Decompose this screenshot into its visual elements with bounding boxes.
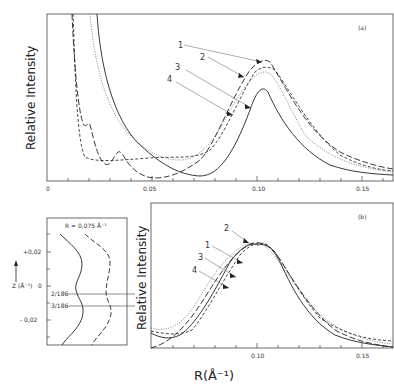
panel-a-curve-1 — [72, 14, 393, 178]
panel-a: 0 0.05 0.10 0.15 Relative Intensity (a) … — [24, 14, 393, 192]
inset-ylabel: Z (Å⁻¹) — [12, 282, 32, 289]
inset-line-3-label: 3/186 — [51, 302, 68, 309]
figure: 0 0.05 0.10 0.15 Relative Intensity (a) … — [0, 0, 394, 388]
panel-a-xtick-015: 0.15 — [356, 185, 370, 192]
inset-y-arrow-icon — [14, 260, 18, 282]
inset-line-2-label: 2/186 — [51, 290, 68, 297]
panel-b-label-1: 1 — [205, 241, 210, 250]
panel-b-arrowheads — [223, 238, 249, 289]
inset-y-ticks — [47, 234, 51, 337]
inset-frame — [47, 218, 127, 345]
panel-b: 0.10 0.15 Relative Intensity R(Å⁻¹) (b) … — [135, 203, 393, 383]
inset-ytick-neg: - 0,02 — [20, 316, 38, 323]
panel-a-ylabel: Relative Intensity — [24, 46, 38, 150]
inset-ytick-zero: 0 — [38, 282, 42, 289]
panel-b-label-2: 2 — [224, 224, 229, 233]
panel-a-leaders — [176, 45, 262, 115]
panel-a-label-4: 4 — [167, 75, 172, 84]
panel-b-label-4: 4 — [192, 266, 197, 275]
panel-a-curve-4 — [97, 14, 393, 176]
inset-title: R = 0,075 Å⁻¹ — [65, 222, 107, 229]
panel-a-label-1: 1 — [178, 41, 183, 50]
inset-ytick-pos: +0,02 — [23, 248, 42, 255]
panel-a-xtick-010: 0.10 — [252, 185, 266, 192]
panel-b-label-3: 3 — [198, 253, 203, 262]
panel-b-label: (b) — [358, 213, 367, 220]
panel-b-curve-4 — [151, 243, 393, 341]
panel-b-xtick-010: 0.10 — [251, 352, 265, 359]
panel-a-x-ticks — [68, 176, 383, 181]
panel-a-curve-3 — [90, 14, 393, 172]
panel-b-xtick-015: 0.15 — [356, 352, 370, 359]
panel-b-ylabel: Relative Intensity — [135, 226, 149, 330]
panel-b-x-ticks — [173, 343, 383, 348]
panel-a-label-3: 3 — [175, 63, 180, 72]
panel-a-xtick-005: 0.05 — [143, 185, 157, 192]
panel-b-frame — [151, 203, 393, 348]
panel-a-label: (a) — [358, 24, 366, 31]
inset-curve-dashed — [85, 234, 111, 345]
panel-b-xlabel: R(Å⁻¹) — [194, 368, 234, 383]
panel-b-leaders — [199, 231, 249, 288]
panel-a-label-2: 2 — [200, 53, 205, 62]
inset-panel: +0,02 0 - 0,02 Z (Å⁻¹) R = 0,075 Å⁻¹ 2/1… — [12, 218, 135, 345]
panel-a-xtick-0: 0 — [46, 185, 50, 192]
